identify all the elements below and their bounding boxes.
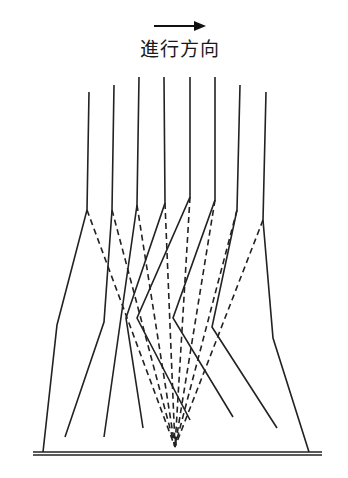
- dashed-path-5: [175, 197, 190, 447]
- solid-path-1: [43, 92, 89, 452]
- dashed-path-4: [165, 203, 175, 447]
- ground-line: [33, 452, 322, 455]
- direction-label: 進行方向: [124, 38, 236, 60]
- direction-arrow-icon: [154, 21, 206, 31]
- solid-path-5: [137, 77, 190, 420]
- solid-ray-paths: [43, 77, 309, 452]
- diagram-canvas: [0, 0, 348, 478]
- dashed-path-8: [175, 220, 263, 447]
- dashed-path-6: [175, 200, 215, 447]
- solid-path-4: [126, 77, 165, 428]
- solid-path-8: [263, 92, 309, 452]
- dashed-path-7: [175, 210, 237, 447]
- solid-path-6: [173, 77, 233, 417]
- solid-path-7: [212, 85, 277, 428]
- ray-diagram: 進行方向: [0, 0, 348, 478]
